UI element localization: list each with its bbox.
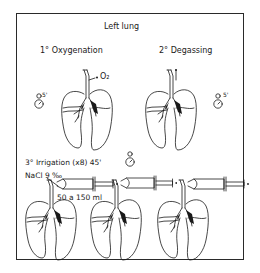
lungs-icon-step-3a [26,180,77,260]
lungs-icon-step-2 [146,70,197,150]
syringe-icon-a [57,177,118,191]
lungs-icon-step-1 [62,70,113,150]
syringe-icon-c [188,177,249,191]
diagram-artwork [0,0,260,273]
stopwatch-icon-step-2 [214,94,222,108]
lungs-icon-step-3b [91,180,142,260]
stopwatch-icon-step-1 [35,94,43,108]
stopwatch-icon-step-3 [126,152,134,166]
syringe-icon-b [121,176,177,190]
lungs-icon-step-3c [158,180,209,260]
